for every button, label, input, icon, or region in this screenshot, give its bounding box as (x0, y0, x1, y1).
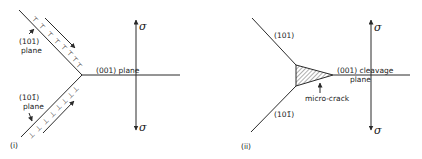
horizontal-plane-label: (001) plane (96, 66, 140, 75)
dislocation-pileup-figure: ⊤ ⊤ ⊤ ⊤ ⊤ ⊤ ⊤ ⊤ ⊥ ⊥ ⊥ ⊥ ⊥ ⊥ ⊥ ⊥ (101) (0, 0, 422, 159)
upper-slip-plane-line (252, 18, 296, 65)
lower-plane-pointer (29, 113, 32, 121)
lower-slip-plane-line (251, 86, 296, 132)
stress-sigma-bottom: σ (139, 121, 147, 134)
lower-plane-label: (101̄) (19, 93, 39, 102)
upper-plane-pointer (29, 29, 34, 34)
stress-sigma-top: σ (139, 20, 147, 33)
lower-plane-label: (101̄) (274, 110, 294, 119)
panel-ii: (101) (101̄) (001) cleavage plane micro-… (241, 18, 410, 151)
cleavage-plane-label-word: plane (350, 75, 371, 84)
micro-crack-wedge (296, 65, 333, 86)
dislocation-icon: ⊥ (41, 116, 51, 126)
stress-sigma-bottom: σ (374, 124, 382, 137)
stress-sigma-top: σ (374, 21, 382, 34)
dislocation-icon: ⊥ (34, 123, 44, 133)
upper-plane-label-word: plane (21, 46, 42, 55)
dislocation-icon: ⊤ (30, 15, 40, 25)
dislocation-icon: ⊥ (27, 130, 37, 140)
micro-crack-label: micro-crack (305, 94, 350, 103)
upper-plane-label: (101) (274, 31, 294, 40)
panel-ii-label: (ii) (241, 142, 251, 151)
dislocation-icon: ⊥ (48, 109, 58, 119)
upper-plane-label: (101) (19, 37, 39, 46)
cleavage-plane-label: (001) cleavage (337, 66, 394, 75)
panel-i-label: (i) (10, 141, 18, 150)
panel-i: ⊤ ⊤ ⊤ ⊤ ⊤ ⊤ ⊤ ⊤ ⊥ ⊥ ⊥ ⊥ ⊥ ⊥ ⊥ ⊥ (101) (10, 10, 180, 150)
lower-plane-label-word: plane (23, 102, 44, 111)
